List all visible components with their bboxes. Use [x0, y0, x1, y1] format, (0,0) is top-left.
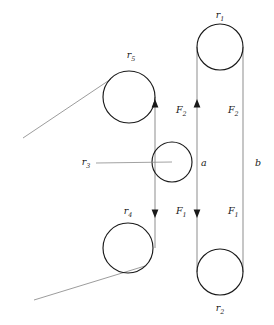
pulley-r4: [103, 223, 153, 273]
force-arrowheads: [152, 99, 201, 218]
label-r4-subscript: 4: [127, 211, 132, 219]
lower-diagonal-line: [34, 266, 145, 300]
label-f2-right-subscript: 2: [234, 110, 239, 118]
label-force-f2-right: F2: [227, 104, 239, 118]
label-r5-subscript: 5: [131, 55, 135, 63]
diagonal-strands: [23, 79, 145, 300]
pulley-r5: [103, 71, 155, 123]
label-f2-left-subscript: 2: [182, 110, 187, 118]
arrowhead-f2-left-up: [152, 99, 159, 108]
label-r1-subscript: 1: [220, 15, 224, 23]
force-labels: F2 F2 F1 F1: [175, 104, 239, 219]
label-pulley-r5: r5: [127, 49, 136, 63]
label-f1-left-subscript: 1: [183, 211, 187, 219]
arrowhead-f1-left-down: [152, 210, 159, 219]
label-force-f2-left: F2: [175, 104, 187, 118]
pulley-r2: [197, 249, 243, 295]
label-f1-right-subscript: 1: [235, 211, 239, 219]
label-force-f1-right: F1: [227, 205, 239, 219]
belt-lines: [155, 47, 243, 272]
label-pulley-r3: r3: [82, 156, 91, 170]
arrowhead-f2-right-up: [194, 99, 201, 108]
label-pulley-r2: r2: [216, 302, 225, 316]
label-belt-a: a: [201, 157, 207, 168]
label-r3-subscript: 3: [86, 162, 90, 170]
figure-canvas: r1 r2 r3 r4 r5 a b F2: [0, 0, 274, 325]
pulley-circles: [103, 24, 243, 295]
label-force-f1-left: F1: [175, 205, 187, 219]
label-pulley-r1: r1: [216, 9, 225, 23]
belt-span-labels: a b: [201, 157, 261, 168]
pulley-force-diagram: r1 r2 r3 r4 r5 a b F2: [0, 0, 274, 325]
arrowhead-f1-right-down: [194, 210, 201, 219]
label-belt-b: b: [255, 157, 261, 168]
r3-leader-line: [96, 162, 172, 163]
upper-diagonal-line: [23, 79, 111, 138]
label-pulley-r4: r4: [124, 205, 133, 219]
pulley-r1: [197, 24, 243, 70]
label-r2-subscript: 2: [219, 308, 224, 316]
